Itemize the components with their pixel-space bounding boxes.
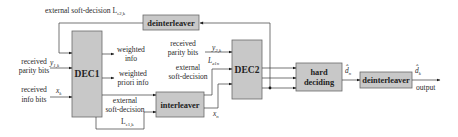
deinterleaver-output-block: deinterleaver <box>360 72 412 88</box>
output-label: output <box>416 83 436 92</box>
weighted-priori-label-2: priori info <box>117 78 148 87</box>
ext2-label-2: soft-decision <box>168 72 207 81</box>
hard-deciding-label-1: hard <box>310 68 328 77</box>
deinterleaver-top-label: deinterleaver <box>147 19 195 28</box>
rx-parity2-label-2: parity bits <box>168 48 199 57</box>
dk-symbol: d̂k <box>415 64 422 75</box>
hard-deciding-block: hard deciding <box>296 63 342 91</box>
dn-symbol: d̂n <box>345 64 352 75</box>
dec1-label: DEC1 <box>75 69 100 79</box>
deinterleaver-output-label: deinterleaver <box>362 76 410 85</box>
le1n-symbol: Le1n <box>207 56 220 66</box>
dec2-label: DEC2 <box>235 65 260 75</box>
ext1-label-2: soft-decision <box>105 105 144 114</box>
rx-parity1-label-1: received <box>21 57 47 66</box>
rx-info-label-2: info bits <box>21 95 46 104</box>
hard-deciding-label-2: deciding <box>304 78 335 87</box>
interleaver-label: interleaver <box>160 101 199 110</box>
xk-symbol: xk <box>55 86 62 96</box>
ext2-label-1: external <box>176 63 200 72</box>
weighted-info-label-2: info <box>125 54 137 63</box>
dec2-block: DEC2 <box>232 40 262 99</box>
weighted-info-label-1: weighted <box>117 45 145 54</box>
xn-symbol: xn <box>212 109 219 119</box>
y1k-symbol: y1,k <box>49 58 60 69</box>
dec1-block: DEC1 <box>72 31 102 117</box>
deinterleaver-top-block: deinterleaver <box>143 15 199 30</box>
xn-to-dec2-arrow <box>204 84 232 108</box>
interleaver-block: interleaver <box>156 92 204 117</box>
y2k-symbol: y2,k <box>211 43 222 54</box>
ext1-label-1: external <box>113 96 137 105</box>
rx-parity2-label-1: received <box>170 39 196 48</box>
rx-parity1-label-2: parity bits <box>19 66 50 75</box>
junction-dot <box>269 87 272 90</box>
feedback-label: external soft-decision Le2,k <box>45 6 126 17</box>
weighted-priori-label-1: weighted <box>119 69 147 78</box>
turbo-decoder-diagram: DEC1 deinterleaver DEC2 interleaver hard… <box>0 0 458 137</box>
rx-info-label-1: received <box>21 85 47 94</box>
le1k-symbol: Le1,k <box>121 117 134 128</box>
